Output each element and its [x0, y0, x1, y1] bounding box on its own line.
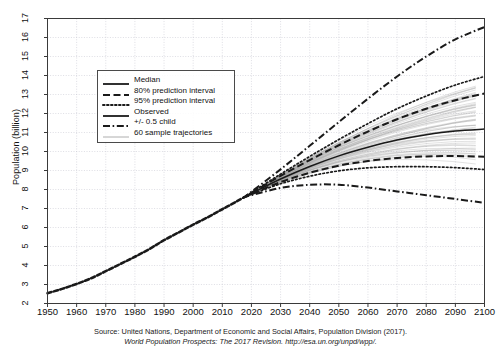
legend-label: Observed [134, 107, 169, 117]
legend-item: 95% prediction interval [102, 96, 229, 107]
sample-trajectories [243, 86, 476, 198]
legend-key-dotted [102, 96, 130, 106]
legend-key-solid-thick [102, 75, 130, 85]
caption-line-1: Source: United Nations, Department of Ec… [0, 327, 501, 336]
legend-key-dashed [102, 86, 130, 96]
population-projection-chart [0, 0, 501, 350]
caption-line-2: World Population Prospects: The 2017 Rev… [0, 337, 501, 346]
y-tick-label: 17 [20, 7, 30, 29]
legend-label: 60 sample trajectories [134, 128, 212, 138]
chart-legend: Median80% prediction interval95% predict… [97, 70, 235, 143]
legend-key-solid-thin-gray [102, 128, 130, 138]
legend-item: 80% prediction interval [102, 86, 229, 97]
legend-label: Median [134, 75, 160, 85]
legend-label: 80% prediction interval [134, 86, 215, 96]
legend-label: +/- 0.5 child [134, 117, 176, 127]
legend-label: 95% prediction interval [134, 96, 215, 106]
legend-item: +/- 0.5 child [102, 117, 229, 128]
legend-item: 60 sample trajectories [102, 128, 229, 139]
x-tick-label: 2100 [465, 306, 501, 317]
legend-key-dash-dot [102, 117, 130, 127]
series--0-5-child [243, 184, 485, 202]
legend-item: Observed [102, 107, 229, 118]
legend-key-solid-thick [102, 107, 130, 117]
legend-item: Median [102, 75, 229, 86]
